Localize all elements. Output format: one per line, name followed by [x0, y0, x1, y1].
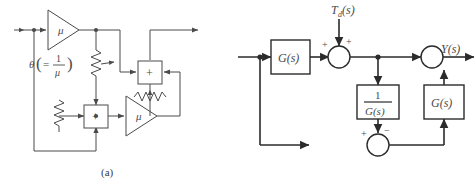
block1-label: G(s) — [278, 51, 299, 65]
summing-circle-icon-output — [421, 46, 443, 68]
diagram-a-wires — [14, 30, 198, 151]
diagram-b-wires — [238, 19, 474, 145]
top-amp-gain-label: μ — [57, 24, 64, 36]
theta-symbol: θ — [29, 58, 35, 70]
bottom-amp-gain-label: μ — [135, 110, 142, 122]
figure-root: μ μ + — [0, 0, 476, 191]
right-summer-sign: + — [146, 66, 153, 80]
transfer-function-block-icon-3: G(s) — [424, 85, 464, 119]
theta-numerator: 1 — [56, 53, 61, 64]
theta-label-group: θ ( = 1 μ ) — [29, 53, 73, 78]
junction-dot-icon-main-tap — [375, 54, 380, 59]
summing-circle-icon-top: + + — [322, 36, 352, 68]
disturbance-label-group: T d (s) — [331, 3, 355, 19]
inverse-block-numerator: 1 — [375, 89, 381, 101]
bottom-summer-right-sign: − — [384, 125, 390, 136]
panel-a: μ μ + — [0, 0, 238, 191]
output-label-y: Y(s) — [441, 42, 460, 56]
wire-pot-wiper — [101, 62, 114, 64]
transfer-function-block-icon-inverse: 1 G(s) — [357, 85, 399, 119]
bottom-summer-left-sign: + — [361, 128, 367, 139]
triangle-amplifier-icon-bottom: μ — [126, 96, 157, 136]
caption-a: (a) — [101, 166, 113, 178]
disturbance-label-suffix: (s) — [342, 3, 355, 17]
theta-denominator: μ — [54, 67, 60, 78]
junction-dot-icon-summer-node — [94, 114, 98, 118]
diagram-a-canvas: μ μ + — [0, 0, 238, 191]
top-summer-left-sign: + — [322, 39, 328, 50]
diagram-b-canvas: G(s) 1 G(s) G(s) + + — [238, 0, 476, 191]
potentiometer-icon — [91, 50, 101, 78]
triangle-amplifier-icon-top: μ — [48, 10, 79, 50]
inverse-block-denominator: G(s) — [365, 105, 385, 118]
theta-equals: = — [43, 58, 49, 70]
transfer-function-block-icon-1: G(s) — [271, 40, 310, 74]
panel-b: G(s) 1 G(s) G(s) + + — [238, 0, 476, 191]
junction-dot-icon-top-node — [94, 28, 98, 32]
block3-label: G(s) — [431, 96, 452, 110]
junction-dot-icon-input — [32, 28, 36, 32]
top-summer-right-sign: + — [346, 36, 352, 47]
theta-close-paren: ) — [67, 54, 73, 73]
summing-circle-icon-bottom: + − — [361, 125, 390, 156]
theta-open-paren: ( — [36, 54, 42, 73]
junction-dot-icon-input-b — [257, 54, 262, 59]
summing-box-icon-right: + — [138, 61, 162, 84]
